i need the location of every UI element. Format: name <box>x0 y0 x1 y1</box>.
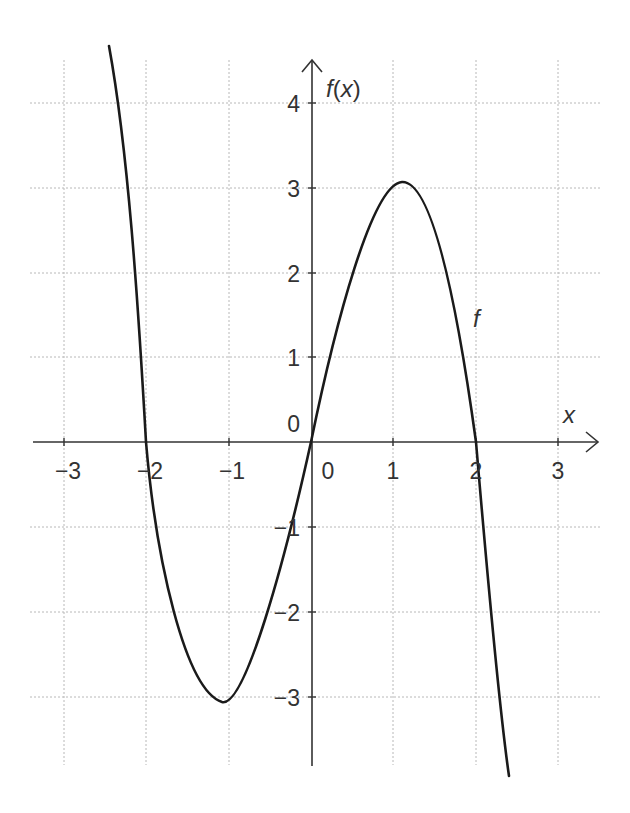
curve-label-f: f <box>473 305 482 332</box>
x-tick-label: 3 <box>552 458 565 484</box>
x-tick-label: 2 <box>470 458 483 484</box>
origin-label: 0 <box>287 411 300 437</box>
function-graph: −3 −2 −1 0 1 2 3 4 3 2 1 0 −1 −2 −3 f(x)… <box>0 0 630 813</box>
function-curve-f <box>109 46 509 776</box>
axis-ticks <box>64 103 558 697</box>
y-tick-label: 1 <box>287 345 300 371</box>
y-tick-label: −3 <box>274 685 300 711</box>
y-axis <box>302 60 322 766</box>
y-tick-label: 2 <box>287 261 300 287</box>
y-tick-label: 4 <box>287 91 300 117</box>
x-tick-label: −2 <box>137 458 163 484</box>
y-axis-title: f(x) <box>326 75 361 102</box>
x-tick-label: 0 <box>322 458 335 484</box>
y-tick-label: −2 <box>274 600 300 626</box>
x-tick-label: −3 <box>55 458 81 484</box>
x-tick-label: 1 <box>387 458 400 484</box>
x-tick-label: −1 <box>219 458 245 484</box>
grid <box>30 60 600 765</box>
y-tick-label: 3 <box>287 176 300 202</box>
x-tick-labels: −3 −2 −1 0 1 2 3 <box>55 458 565 484</box>
y-tick-labels: 4 3 2 1 0 −1 −2 −3 <box>274 91 300 711</box>
x-axis-title: x <box>562 401 576 428</box>
y-tick-label: −1 <box>274 515 300 541</box>
x-axis <box>33 432 598 452</box>
